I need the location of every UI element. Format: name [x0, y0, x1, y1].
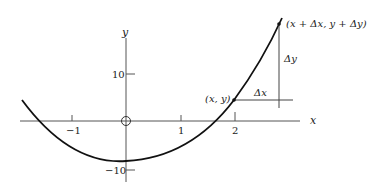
- y-tick-label-neg10: −10: [105, 165, 126, 176]
- x-tick-label-2: 2: [232, 125, 238, 136]
- point-label-x-dx-y-dy: (x + Δx, y + Δy): [286, 18, 367, 29]
- x-axis-label: x: [310, 114, 317, 127]
- delta-y-label: Δy: [283, 53, 297, 64]
- diagram-canvas: x y −1 1 2 10 −10 (x, y) (x + Δx, y + Δy…: [0, 0, 370, 192]
- y-axis-label: y: [121, 26, 129, 39]
- function-curve: [22, 18, 282, 161]
- y-tick-label-10: 10: [112, 69, 125, 80]
- delta-x-label: Δx: [253, 87, 267, 98]
- x-tick-label-1: 1: [178, 125, 184, 136]
- x-tick-label-neg1: −1: [66, 125, 81, 136]
- function-graph: x y −1 1 2 10 −10 (x, y) (x + Δx, y + Δy…: [0, 0, 370, 192]
- point-label-x-y: (x, y): [205, 93, 231, 104]
- point-x-dx-y-dy: [277, 22, 281, 26]
- point-x-y: [232, 98, 236, 102]
